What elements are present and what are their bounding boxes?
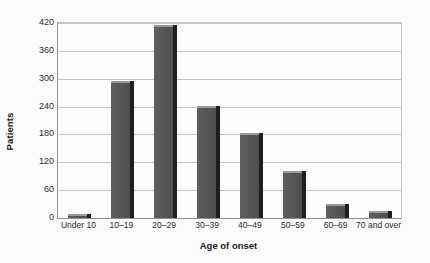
x-axis-tick: 10–19 [98,220,144,230]
y-axis-tick: 0 [24,213,54,222]
plot-area [57,22,402,219]
bar[interactable] [326,206,345,218]
bar-slot [275,23,313,218]
y-axis-tick: 120 [24,157,54,166]
x-axis-tick: 60–69 [313,220,359,230]
bar-slot [103,23,141,218]
bar-slot [318,23,356,218]
bar[interactable] [154,27,173,218]
bar[interactable] [197,108,216,218]
y-axis-title: Patients [0,86,20,176]
y-axis-tick: 240 [24,101,54,110]
bar[interactable] [68,216,87,218]
bar-slot [146,23,184,218]
bar[interactable] [369,213,388,218]
y-axis-tick: 60 [24,185,54,194]
x-axis-tick: 30–39 [184,220,230,230]
bars-container [58,23,401,218]
bar-slot [189,23,227,218]
x-axis-tick: 70 and over [356,220,402,230]
x-axis-tick: 40–49 [227,220,273,230]
y-axis-title-label: Patients [5,112,16,150]
bar[interactable] [240,135,259,218]
bar-chart-figure: Patients 060120180240300360420 Under 101… [0,0,430,263]
bar-slot [361,23,399,218]
x-axis-tick: 50–59 [270,220,316,230]
y-axis-tick: 180 [24,129,54,138]
x-axis-title: Age of onset [57,240,400,251]
x-axis-tick: 20–29 [141,220,187,230]
x-axis-tick: Under 10 [55,220,101,230]
bar[interactable] [283,173,302,218]
bar[interactable] [111,83,130,218]
bar-slot [60,23,98,218]
bar-slot [232,23,270,218]
y-axis-tick: 360 [24,45,54,54]
y-axis-tick-labels: 060120180240300360420 [20,0,54,263]
y-axis-tick: 300 [24,73,54,82]
y-axis-tick: 420 [24,18,54,27]
